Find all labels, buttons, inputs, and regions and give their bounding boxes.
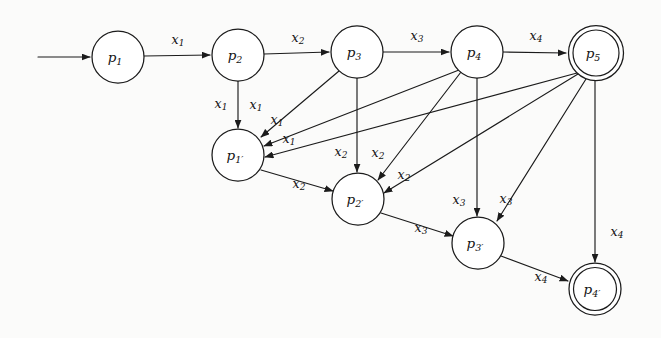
edge-label-sub-16: 4	[617, 230, 624, 240]
state-node-p4p[interactable]: p4′	[569, 263, 621, 315]
state-sublabel-p1p: 1′	[235, 153, 244, 164]
edge-p3-to-p1p	[261, 71, 339, 137]
edge-label-sub-0: 1	[179, 38, 185, 48]
edge-label-p2p-to-p3p: x3	[415, 220, 428, 236]
state-sublabel-p3p: 3′	[475, 241, 484, 252]
edge-label-p5-to-p2p: x2	[398, 167, 411, 183]
edge-label-sub-11: 2	[404, 173, 411, 183]
edge-p1-to-p2	[144, 55, 210, 56]
edge-label-sub-1: 2	[298, 36, 305, 46]
edge-label-p4-to-p1p: x1	[271, 112, 284, 128]
edge-label-sub-12: 3	[422, 226, 428, 236]
state-node-p1p[interactable]: p1′	[212, 129, 264, 181]
state-sublabel-p1: 1	[116, 55, 122, 66]
edge-p4-to-p2p	[378, 72, 461, 180]
edge-label-p5-to-p4p: x4	[611, 224, 624, 240]
edge-label-sub-7: 1	[290, 137, 296, 147]
edge-label-p2-to-p1p: x1	[215, 96, 228, 112]
edge-label-sub-9: 2	[341, 150, 348, 160]
state-node-p1[interactable]: p1	[92, 31, 144, 83]
edge-label-p3-to-p2p: x2	[335, 144, 348, 160]
automaton-figure: p1p2p3p4p5p1′p2′p3′p4′ x1x2x3x4x1x1x1x1x…	[0, 0, 661, 338]
state-sublabel-p3: 3	[355, 50, 361, 61]
edge-label-p5-to-p1p: x1	[283, 131, 296, 147]
edge-label-p5-to-p3p: x3	[500, 191, 513, 207]
edge-p5-to-p1p	[265, 73, 577, 157]
edge-label-sub-5: 1	[257, 103, 263, 113]
edges-layer	[38, 52, 595, 281]
edge-label-sub-4: 1	[222, 102, 228, 112]
state-node-p3p[interactable]: p3′	[452, 217, 504, 269]
edge-label-p1p-to-p2p: x2	[293, 176, 306, 192]
state-sublabel-p2p: 2′	[354, 197, 364, 208]
edge-p4-to-p5	[503, 52, 566, 53]
edge-label-p3-to-p1p: x1	[250, 97, 263, 113]
state-node-p4[interactable]: p4	[451, 26, 503, 78]
state-sublabel-p2: 2	[235, 53, 242, 64]
edge-label-sub-2: 3	[418, 34, 424, 44]
state-sublabel-p4: 4	[474, 50, 481, 61]
state-sublabel-p5: 5	[594, 51, 600, 62]
state-node-p2[interactable]: p2	[212, 29, 264, 81]
edge-label-p1-to-p2: x1	[172, 32, 185, 48]
edge-label-sub-14: 3	[507, 197, 513, 207]
state-node-p3[interactable]: p3	[331, 26, 383, 78]
edge-label-p3p-to-p4p: x4	[535, 269, 548, 285]
automaton-diagram-svg: p1p2p3p4p5p1′p2′p3′p4′ x1x2x3x4x1x1x1x1x…	[0, 0, 661, 338]
state-sublabel-p4p: 4′	[591, 287, 601, 298]
edge-label-p4-to-p3p: x3	[453, 192, 466, 208]
edge-label-p2-to-p3: x2	[292, 30, 305, 46]
edge-label-p4-to-p2p: x2	[372, 145, 385, 161]
edge-label-sub-15: 4	[541, 275, 548, 285]
edge-label-sub-10: 2	[378, 151, 385, 161]
state-node-p2p[interactable]: p2′	[332, 173, 384, 225]
edge-p2-to-p3	[264, 52, 329, 54]
edge-label-sub-8: 2	[299, 182, 306, 192]
edge-label-sub-3: 4	[536, 34, 543, 44]
edge-label-p3-to-p4: x3	[411, 28, 424, 44]
edge-p4-to-p1p	[264, 70, 459, 146]
edge-label-p4-to-p5: x4	[530, 28, 543, 44]
edge-label-sub-6: 1	[278, 118, 284, 128]
state-node-p5[interactable]: p5	[569, 26, 624, 81]
edge-label-sub-13: 3	[460, 198, 466, 208]
